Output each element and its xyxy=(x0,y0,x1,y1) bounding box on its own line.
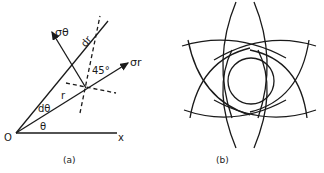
label-sigma-r: σr xyxy=(130,56,142,69)
caption-a: (a) xyxy=(63,155,76,165)
petal-arc xyxy=(250,50,307,118)
caption-b: (b) xyxy=(216,155,229,165)
label-theta: θ xyxy=(40,121,46,132)
label-origin: O xyxy=(4,132,12,143)
figure-b xyxy=(182,2,316,148)
petal-arc xyxy=(223,2,236,118)
label-dr: dr xyxy=(79,33,95,49)
sigma-r-arrow xyxy=(16,63,128,133)
label-x-axis: x xyxy=(118,132,124,143)
figure-a xyxy=(16,16,128,133)
petal-arc xyxy=(190,48,250,118)
label-d-theta: dθ xyxy=(38,103,50,114)
figure-canvas: σθ dr 45° σr r dθ θ O x (a) (b) xyxy=(0,0,324,173)
dashed-line-shallow xyxy=(66,83,116,93)
petal-arc xyxy=(182,40,286,58)
label-r: r xyxy=(61,90,66,101)
label-45-degrees: 45° xyxy=(92,65,110,76)
label-sigma-theta: σθ xyxy=(55,26,69,39)
